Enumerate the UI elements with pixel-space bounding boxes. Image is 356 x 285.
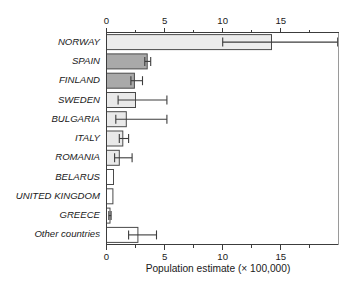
top-tick-label-10: 10	[217, 15, 228, 26]
category-label-romania: ROMANIA	[55, 151, 100, 162]
category-label-sweden: SWEDEN	[58, 94, 100, 105]
x-axis-title: Population estimate (× 100,000)	[146, 263, 291, 274]
bar-finland	[107, 73, 135, 88]
bar-united-kingdom	[107, 189, 113, 204]
bar-chart: NORWAYSPAINFINLANDSWEDENBULGARIAITALYROM…	[0, 0, 356, 285]
top-tick-label-15: 15	[275, 15, 286, 26]
category-label-finland: FINLAND	[59, 74, 100, 85]
category-label-greece: GREECE	[59, 209, 100, 220]
category-label-norway: NORWAY	[58, 36, 101, 47]
top-tick-label-0: 0	[104, 15, 109, 26]
category-label-other-countries: Other countries	[34, 228, 100, 239]
bottom-tick-label-10: 10	[217, 251, 228, 262]
bar-belarus	[107, 170, 114, 185]
tick-labels-layer: 005510101515	[104, 15, 286, 262]
bar-spain	[107, 54, 148, 69]
category-label-spain: SPAIN	[72, 55, 100, 66]
bars-layer	[107, 35, 272, 243]
category-label-belarus: BELARUS	[55, 171, 100, 182]
bottom-tick-label-15: 15	[275, 251, 286, 262]
category-labels-layer: NORWAYSPAINFINLANDSWEDENBULGARIAITALYROM…	[16, 36, 101, 240]
bottom-tick-label-0: 0	[104, 251, 109, 262]
category-label-united-kingdom: UNITED KINGDOM	[16, 190, 100, 201]
top-tick-label-5: 5	[162, 15, 167, 26]
chart-canvas: NORWAYSPAINFINLANDSWEDENBULGARIAITALYROM…	[0, 0, 356, 285]
category-label-bulgaria: BULGARIA	[51, 113, 100, 124]
category-label-italy: ITALY	[75, 132, 101, 143]
bottom-tick-label-5: 5	[162, 251, 167, 262]
